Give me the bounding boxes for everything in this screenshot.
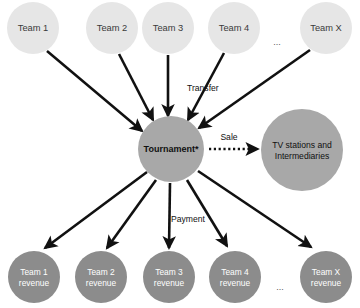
bottom-row-ellipsis: ... <box>276 282 284 292</box>
node-team-x-revenue[interactable]: Team X revenue <box>300 251 352 303</box>
edge-label-sale: Sale <box>220 132 237 142</box>
edge-tournament-to-team-1-revenue <box>45 172 147 248</box>
node-team-3[interactable]: Team 3 <box>142 2 194 54</box>
node-team-1[interactable]: Team 1 <box>7 2 59 54</box>
edge-team-1-to-tournament <box>47 51 142 131</box>
edge-label-payment: Payment <box>171 214 206 224</box>
edge-tournament-to-team-4-revenue <box>187 180 227 246</box>
node-team-4-revenue[interactable]: Team 4 revenue <box>209 251 261 303</box>
node-team-3-revenue[interactable]: Team 3 revenue <box>143 251 195 303</box>
node-team-2-revenue[interactable]: Team 2 revenue <box>75 251 127 303</box>
top-row-ellipsis: ... <box>273 37 281 47</box>
node-tv-stations[interactable]: TV stations and Intermediaries <box>261 109 343 191</box>
outbound-edges-group <box>45 171 311 248</box>
bottom-nodes-group: Team 1 revenue Team 2 revenue Team 3 rev… <box>8 251 352 303</box>
edge-tournament-to-team-3-revenue <box>169 183 170 248</box>
edge-team-4-to-tournament <box>188 53 224 120</box>
diagram-svg: Team 1 Team 2 Team 3 Team 4 Team X ... <box>0 0 360 308</box>
node-team-1-revenue[interactable]: Team 1 revenue <box>8 251 60 303</box>
node-team-2[interactable]: Team 2 <box>86 2 138 54</box>
top-nodes-group: Team 1 Team 2 Team 3 Team 4 Team X ... <box>7 2 352 54</box>
edge-tournament-to-team-2-revenue <box>107 180 156 248</box>
node-tournament[interactable]: Tournament* <box>138 116 204 182</box>
edge-team-2-to-tournament <box>119 54 153 120</box>
node-team-x[interactable]: Team X <box>300 2 352 54</box>
node-team-4[interactable]: Team 4 <box>208 2 260 54</box>
diagram-canvas: Team 1 Team 2 Team 3 Team 4 Team X ... <box>0 0 360 308</box>
